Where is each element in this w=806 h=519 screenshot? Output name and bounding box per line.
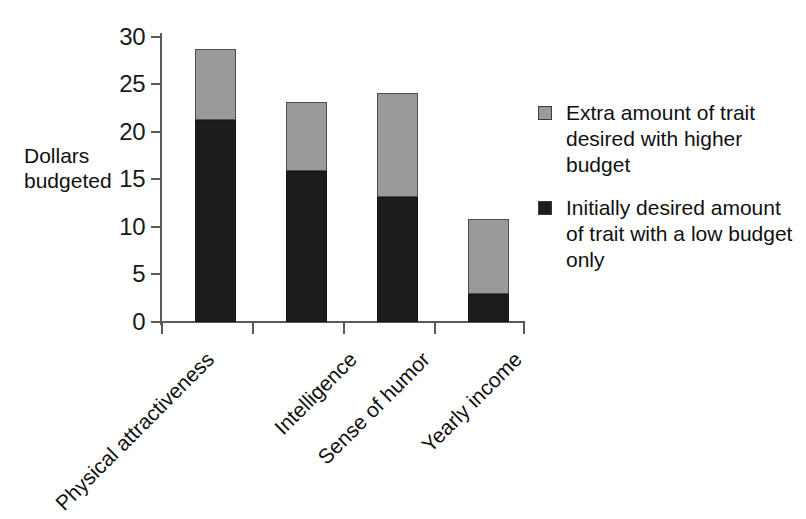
y-tick-label-0: 0 (99, 310, 145, 334)
y-tick-label-25: 25 (99, 72, 145, 96)
y-tick-label-20: 20 (99, 120, 145, 144)
bar-segment-extra-budget (468, 219, 509, 294)
bar-segment-low-budget (377, 197, 418, 322)
legend: Extra amount of trait desired with highe… (538, 100, 800, 290)
y-tick-label-5: 5 (99, 262, 145, 286)
plot-area (160, 37, 522, 322)
legend-item-low-budget: Initially desired amount of trait with a… (538, 195, 800, 273)
y-tick-label-30: 30 (99, 25, 145, 49)
legend-item-extra-budget: Extra amount of trait desired with highe… (538, 100, 800, 178)
y-tick-label-10: 10 (99, 215, 145, 239)
legend-label-extra-budget: Extra amount of trait desired with highe… (566, 101, 755, 176)
x-tick-mark-0 (161, 323, 163, 334)
x-tick-mark-4 (523, 323, 525, 334)
legend-label-low-budget: Initially desired amount of trait with a… (566, 196, 792, 271)
bar-segment-extra-budget (377, 93, 418, 197)
bar-segment-low-budget (195, 120, 236, 322)
x-tick-mark-3 (434, 323, 436, 334)
bar-segment-extra-budget (286, 102, 327, 171)
legend-swatch-icon-low-budget (538, 201, 552, 215)
bar-segment-low-budget (286, 171, 327, 322)
bar-segment-low-budget (468, 294, 509, 322)
x-category-label-physical-attractiveness: Physical attractiveness (26, 348, 218, 519)
stacked-bar-chart: Dollars budgeted 30 25 20 15 10 5 0 (0, 0, 806, 519)
y-tick-label-15: 15 (99, 167, 145, 191)
legend-swatch-icon-extra-budget (538, 106, 552, 120)
x-tick-mark-1 (252, 323, 254, 334)
x-tick-mark-2 (343, 323, 345, 334)
bar-segment-extra-budget (195, 49, 236, 119)
